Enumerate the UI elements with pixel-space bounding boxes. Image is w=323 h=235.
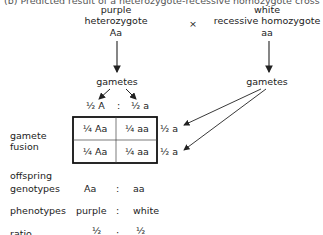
punnett-cell-r2c1: ¼ Aa (74, 146, 116, 157)
offspring-genotype-Aa: Aa (84, 183, 96, 194)
label-offspring: offspring (10, 170, 52, 181)
label-genotypes: genotypes (10, 183, 60, 194)
arrow-to-A (99, 89, 110, 99)
ratio-separator: : (116, 228, 119, 235)
arrow-to-a (126, 89, 136, 99)
punnett-cell-r1c2: ¼ aa (116, 123, 158, 134)
label-phenotypes: phenotypes (10, 205, 66, 216)
ratio-right: ½ (136, 225, 145, 235)
ratio-left: ½ (92, 225, 101, 235)
phenotype-purple: purple (76, 205, 106, 216)
row1-gamete-a: ½ a (160, 123, 178, 134)
punnett-cell-r2c2: ¼ aa (116, 146, 158, 157)
offspring-genotype-aa: aa (133, 183, 145, 194)
arrow-to-row1-a (184, 89, 261, 125)
genotype-separator: : (116, 183, 119, 194)
row2-gamete-a: ½ a (160, 146, 178, 157)
phenotype-separator: : (116, 205, 119, 216)
label-ratio: ratio (10, 228, 32, 235)
label-fusion: fusion (10, 141, 39, 152)
diagram-lines (0, 0, 323, 235)
label-gamete: gamete (10, 130, 47, 141)
phenotype-white: white (133, 205, 159, 216)
punnett-cell-r1c1: ¼ Aa (74, 123, 116, 134)
